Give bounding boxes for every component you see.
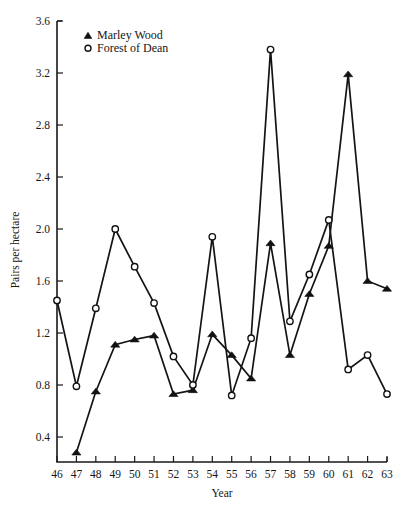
legend-marker-circle-icon <box>85 45 91 51</box>
x-tick-label: 46 <box>51 468 63 480</box>
legend-label: Forest of Dean <box>97 41 168 55</box>
x-tick-label: 56 <box>245 468 257 480</box>
x-tick-label: 59 <box>304 468 316 480</box>
x-tick-label: 58 <box>284 468 296 480</box>
x-tick-label: 48 <box>90 468 102 480</box>
data-point-forest-of-dean <box>326 217 332 223</box>
data-point-forest-of-dean <box>170 353 176 359</box>
axis-lines <box>57 21 387 462</box>
x-tick-label: 53 <box>187 468 199 480</box>
legend-marker-triangle-icon <box>84 32 92 38</box>
data-point-forest-of-dean <box>384 391 390 397</box>
data-point-marley-wood <box>149 332 158 338</box>
x-tick-label: 57 <box>265 468 277 480</box>
x-tick-label: 61 <box>342 468 354 480</box>
data-point-marley-wood <box>285 352 294 358</box>
data-point-forest-of-dean <box>267 46 273 52</box>
data-point-marley-wood <box>266 240 275 246</box>
y-tick-label: 2.8 <box>36 119 51 131</box>
x-tick-label: 49 <box>109 468 121 480</box>
data-point-marley-wood <box>72 449 81 455</box>
x-tick-label: 63 <box>381 468 393 480</box>
data-point-forest-of-dean <box>306 271 312 277</box>
y-tick-label: 0.4 <box>36 431 51 443</box>
data-point-forest-of-dean <box>151 300 157 306</box>
y-tick-label: 1.2 <box>36 327 51 339</box>
data-point-forest-of-dean <box>73 383 79 389</box>
x-axis-ticks: 464748495051525354555657585960616263 <box>51 456 393 480</box>
chart-legend: Marley WoodForest of Dean <box>84 28 168 55</box>
x-axis-title: Year <box>211 487 232 499</box>
y-tick-label: 3.2 <box>36 67 51 79</box>
x-tick-label: 60 <box>323 468 335 480</box>
line-chart: 0.40.81.21.62.02.42.83.23.6 464748495051… <box>0 0 412 514</box>
data-point-marley-wood <box>363 278 372 284</box>
y-tick-label: 1.6 <box>36 275 51 287</box>
x-tick-label: 47 <box>71 468 83 480</box>
x-tick-label: 55 <box>226 468 238 480</box>
x-tick-label: 62 <box>362 468 374 480</box>
y-tick-label: 3.6 <box>36 15 51 27</box>
axes <box>57 21 387 462</box>
data-point-forest-of-dean <box>209 234 215 240</box>
chart-page: 0.40.81.21.62.02.42.83.23.6 464748495051… <box>0 0 412 514</box>
data-point-marley-wood <box>91 388 100 394</box>
x-tick-label: 52 <box>168 468 180 480</box>
y-tick-label: 2.0 <box>36 223 51 235</box>
y-axis-title: Pairs per hectare <box>9 212 22 289</box>
data-point-forest-of-dean <box>364 352 370 358</box>
y-tick-label: 2.4 <box>36 171 51 183</box>
data-point-forest-of-dean <box>287 318 293 324</box>
data-point-marley-wood <box>247 375 256 381</box>
data-series <box>54 46 392 455</box>
data-point-marley-wood <box>208 331 217 337</box>
data-point-forest-of-dean <box>93 305 99 311</box>
data-point-marley-wood <box>344 71 353 77</box>
x-tick-label: 50 <box>129 468 141 480</box>
data-point-forest-of-dean <box>54 297 60 303</box>
data-point-forest-of-dean <box>248 335 254 341</box>
y-tick-label: 0.8 <box>36 379 51 391</box>
data-point-forest-of-dean <box>345 366 351 372</box>
plot-area: 0.40.81.21.62.02.42.83.23.6 464748495051… <box>9 15 393 499</box>
data-point-forest-of-dean <box>131 264 137 270</box>
y-axis-ticks: 0.40.81.21.62.02.42.83.23.6 <box>36 15 63 443</box>
x-tick-label: 54 <box>207 468 219 480</box>
data-point-marley-wood <box>305 291 314 297</box>
data-point-forest-of-dean <box>112 226 118 232</box>
legend-label: Marley Wood <box>97 28 163 42</box>
data-point-forest-of-dean <box>229 392 235 398</box>
x-tick-label: 51 <box>148 468 160 480</box>
data-point-forest-of-dean <box>190 382 196 388</box>
